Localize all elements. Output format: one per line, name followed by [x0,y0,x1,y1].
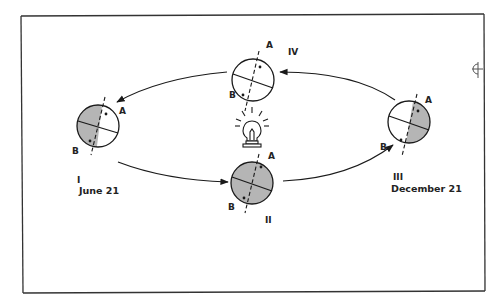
point-b-label-iv: B [229,91,236,100]
globe-position-iii [388,90,440,160]
globe-position-ii [231,154,273,213]
light-bulb-icon [235,107,269,147]
arrow-i-to-ii [118,162,228,182]
point-b-label-ii: B [228,203,235,212]
orbit-diagram: A B I June 21 A B IV A B II A B III Dece… [0,0,503,306]
position-date-i: June 21 [79,186,119,196]
point-a-label-iv: A [266,41,273,50]
figure-frame [21,14,485,293]
position-numeral-i: I [77,176,80,185]
point-a-label-iii: A [425,96,432,105]
crosshair-half-circle-icon [472,62,483,78]
point-b-label-i: B [72,147,79,156]
arrow-iii-to-iv [280,72,395,100]
position-numeral-iv: IV [288,48,298,57]
position-numeral-ii: II [265,216,272,225]
arrow-iv-to-i [117,72,227,102]
position-date-iii: December 21 [391,184,462,194]
point-a-label-ii: A [268,152,275,161]
position-numeral-iii: III [393,173,403,182]
point-b-label-iii: B [380,143,387,152]
point-a-label-i: A [119,107,126,116]
globe-position-i [60,90,119,170]
arrow-ii-to-iii [283,145,393,181]
globe-position-iv [232,51,274,111]
